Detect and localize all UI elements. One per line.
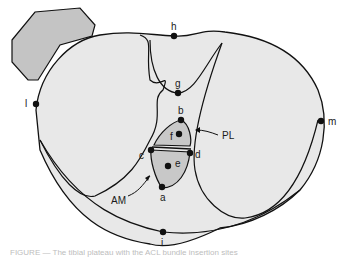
am-callout-label: AM — [111, 195, 126, 206]
point-label-e: e — [175, 158, 181, 169]
point-label-g: g — [175, 78, 181, 89]
point-label-f: f — [170, 131, 173, 142]
figure-caption: FIGURE — The tibial plateau with the ACL… — [10, 248, 345, 257]
point-label-c: c — [139, 150, 144, 161]
point-label-b: b — [178, 105, 184, 116]
point-label-i: i — [161, 237, 163, 248]
pl-callout-label: PL — [222, 130, 235, 141]
point-label-m: m — [328, 116, 336, 127]
point-label-d: d — [195, 149, 201, 160]
point-label-a: a — [160, 192, 166, 203]
point-label-h: h — [171, 21, 177, 32]
point-label-l: l — [25, 98, 27, 109]
tibial-plateau-diagram: a b c d e f g h i l m AM PL — [0, 0, 348, 263]
